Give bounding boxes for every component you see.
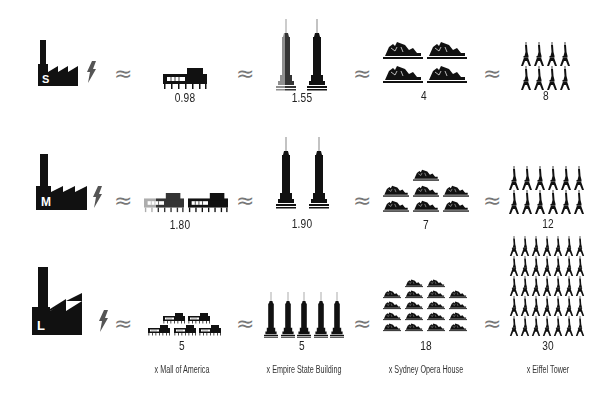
- opera-house-icon: [383, 290, 401, 299]
- approx-symbol: ≈: [114, 313, 132, 335]
- opera-house-icon: [449, 301, 467, 310]
- opera-house-icon: [449, 323, 467, 332]
- eiffel-tower-icon: [509, 276, 519, 296]
- eiffel-tower-icon: [509, 256, 519, 276]
- eiffel-tower-icon: [575, 256, 585, 276]
- caption-opera: x Sydney Opera House: [376, 364, 477, 375]
- eiffel-tower-icon: [553, 296, 563, 316]
- eiffel-tower-icon: [542, 276, 552, 296]
- eiffel-tower-icon: [553, 256, 563, 276]
- eiffel-tower-icon: [531, 276, 541, 296]
- svg-text:L: L: [37, 318, 45, 333]
- opera-house-icon: [383, 301, 401, 310]
- opera-house-icon: [427, 301, 445, 310]
- eiffel-tower-icon: [564, 236, 574, 256]
- eiffel-tower-icon: [575, 276, 585, 296]
- eiffel-tower-icon: [564, 256, 574, 276]
- empire-state-icon: [314, 292, 328, 338]
- mall-icon: [174, 325, 196, 336]
- value-opera: 18: [403, 338, 450, 353]
- eiffel-tower-icon: [564, 276, 574, 296]
- eiffel-tower-icon: [575, 296, 585, 316]
- eiffel-tower-icon: [542, 316, 552, 336]
- caption-eiffel: x Eiffel Tower: [498, 364, 599, 375]
- factory-large-icon: L: [30, 267, 96, 335]
- eiffel-tower-icon: [564, 296, 574, 316]
- eiffel-tower-icon: [520, 236, 530, 256]
- eiffel-tower-icon: [520, 276, 530, 296]
- opera-house-icon: [427, 290, 445, 299]
- eiffel-tower-icon: [542, 236, 552, 256]
- eiffel-tower-icon: [553, 316, 563, 336]
- eiffel-tower-icon: [509, 316, 519, 336]
- eiffel-grid: [509, 236, 585, 338]
- approx-symbol: ≈: [483, 313, 501, 335]
- eiffel-tower-icon: [509, 296, 519, 316]
- opera-house-icon: [427, 279, 445, 288]
- opera-house-icon: [449, 290, 467, 299]
- opera-grid: [383, 279, 473, 339]
- approx-symbol: ≈: [353, 313, 371, 335]
- empire-state-icon: [264, 292, 278, 338]
- mall-icon: [199, 325, 221, 336]
- eiffel-tower-icon: [531, 296, 541, 316]
- eiffel-tower-icon: [520, 316, 530, 336]
- eiffel-tower-icon: [564, 316, 574, 336]
- value-mall: 5: [159, 338, 206, 353]
- eiffel-tower-icon: [520, 256, 530, 276]
- mall-icon: [188, 313, 210, 324]
- approx-symbol: ≈: [236, 313, 254, 335]
- eiffel-tower-icon: [531, 236, 541, 256]
- opera-house-icon: [383, 312, 401, 321]
- eiffel-tower-icon: [542, 296, 552, 316]
- opera-house-icon: [405, 323, 423, 332]
- value-empire: 5: [279, 338, 326, 353]
- eiffel-tower-icon: [509, 236, 519, 256]
- opera-house-icon: [449, 312, 467, 321]
- row-large: L ≈ 5 x Mall of America ≈ 5 x Empire Sta…: [0, 0, 614, 395]
- mall-icon: [163, 313, 185, 324]
- opera-house-icon: [427, 312, 445, 321]
- opera-house-icon: [383, 323, 401, 332]
- eiffel-tower-icon: [531, 256, 541, 276]
- opera-house-icon: [427, 323, 445, 332]
- eiffel-tower-icon: [575, 236, 585, 256]
- opera-house-icon: [405, 279, 423, 288]
- caption-empire: x Empire State Building: [254, 364, 355, 375]
- eiffel-tower-icon: [531, 316, 541, 336]
- eiffel-tower-icon: [553, 236, 563, 256]
- value-eiffel: 30: [525, 338, 572, 353]
- eiffel-tower-icon: [520, 296, 530, 316]
- empire-state-icon: [281, 292, 295, 338]
- empire-state-icon: [297, 292, 311, 338]
- opera-house-icon: [405, 290, 423, 299]
- opera-house-icon: [405, 301, 423, 310]
- eiffel-tower-icon: [575, 316, 585, 336]
- opera-house-icon: [405, 312, 423, 321]
- lightning-icon: [98, 310, 108, 332]
- mall-icon: [148, 325, 170, 336]
- eiffel-tower-icon: [553, 276, 563, 296]
- empire-state-icon: [330, 292, 344, 338]
- eiffel-tower-icon: [542, 256, 552, 276]
- caption-mall: x Mall of America: [132, 364, 233, 375]
